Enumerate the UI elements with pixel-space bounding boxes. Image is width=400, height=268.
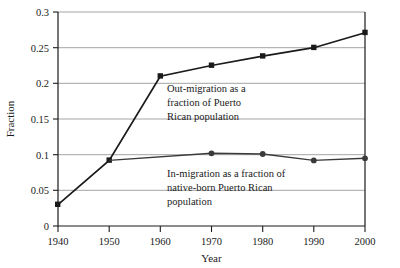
out-migration-annotation-line-3: Rican population <box>167 111 240 122</box>
data-point-in-1970 <box>209 150 215 156</box>
y-tick-label-0.3: 0.3 <box>36 7 49 18</box>
y-tick-labels: 0.3 0.25 0.2 0.15 0.1 0.05 0 <box>31 7 49 232</box>
y-tick-label-0.05: 0.05 <box>31 185 49 196</box>
in-migration-annotation-line-2: native-born Puerto Rican <box>167 182 273 193</box>
data-point-in-1990 <box>311 158 317 164</box>
x-tick-label-1940: 1940 <box>48 236 69 247</box>
x-tick-label-1980: 1980 <box>252 236 273 247</box>
x-tick-label-2000: 2000 <box>355 236 376 247</box>
data-point-in-1980 <box>260 151 266 157</box>
migration-line-chart: 0.3 0.25 0.2 0.15 0.1 0.05 0 1940 1950 1… <box>0 0 400 268</box>
x-tick-label-1950: 1950 <box>99 236 120 247</box>
x-tick-marks <box>58 226 365 232</box>
out-migration-annotation: Out-migration as a fraction of Puerto Ri… <box>167 83 246 122</box>
data-point-out-1970 <box>209 63 214 68</box>
data-point-out-1990 <box>311 45 316 50</box>
data-point-out-1980 <box>260 53 265 58</box>
y-tick-marks <box>53 12 58 226</box>
data-point-out-1940 <box>55 202 60 207</box>
in-migration-annotation-line-1: In-migration as a fraction of <box>167 168 286 179</box>
y-tick-label-0: 0 <box>44 221 49 232</box>
x-tick-label-1970: 1970 <box>201 236 222 247</box>
data-point-out-1960 <box>158 73 163 78</box>
y-axis-title: Fraction <box>4 100 16 137</box>
in-migration-annotation-line-3: population <box>167 196 213 207</box>
x-tick-label-1960: 1960 <box>150 236 171 247</box>
chart-container: 0.3 0.25 0.2 0.15 0.1 0.05 0 1940 1950 1… <box>0 0 400 268</box>
y-tick-label-0.1: 0.1 <box>36 150 49 161</box>
y-tick-label-0.2: 0.2 <box>36 78 49 89</box>
x-tick-labels: 1940 1950 1960 1970 1980 1990 2000 <box>48 236 376 247</box>
y-tick-label-0.25: 0.25 <box>31 43 49 54</box>
x-tick-label-1990: 1990 <box>303 236 324 247</box>
data-point-in-2000 <box>362 155 368 161</box>
out-migration-annotation-line-2: fraction of Puerto <box>167 97 241 108</box>
y-tick-label-0.15: 0.15 <box>31 114 49 125</box>
x-axis-title: Year <box>201 252 222 264</box>
out-migration-annotation-line-1: Out-migration as a <box>167 83 246 94</box>
data-point-out-2000 <box>362 30 367 35</box>
